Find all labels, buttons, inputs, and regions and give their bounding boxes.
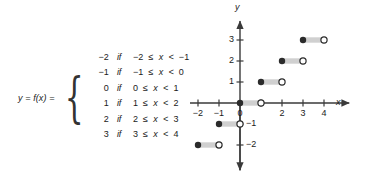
closed-endpoint-dot [258, 79, 264, 85]
x-tick-label: −2 [192, 108, 204, 118]
case-rel2: < [168, 67, 173, 77]
x-tick-label: −1 [213, 108, 225, 118]
y-tick-label: −2 [246, 139, 256, 149]
case-lower: −2 [133, 52, 144, 62]
open-endpoint-dot [300, 58, 306, 64]
case-value: 0 [92, 83, 109, 93]
case-upper: −1 [179, 52, 190, 62]
x-tick-label: 3 [300, 108, 306, 118]
case-lower: 1 [133, 98, 138, 108]
case-condition: 1≤x<2 [133, 98, 179, 108]
y-tick-label: −1 [246, 118, 256, 128]
case-value: 3 [92, 129, 109, 139]
case-condition: −1≤x<0 [133, 67, 184, 77]
plot-svg [190, 0, 368, 180]
case-lower: −1 [133, 67, 144, 77]
case-keyword: if [109, 129, 133, 139]
cases-list: −2 if −2≤x<−1 −1 if −1≤x<0 0 if 0≤x<1 1 … [92, 52, 190, 145]
case-rel1: ≤ [149, 52, 154, 62]
case-upper: 0 [179, 67, 184, 77]
y-axis-label: y [235, 2, 240, 12]
case-rel1: ≤ [143, 83, 148, 93]
x-axis-label: x [336, 97, 341, 107]
closed-endpoint-dot [237, 100, 243, 106]
case-rel1: ≤ [149, 67, 154, 77]
case-value: 1 [92, 98, 109, 108]
case-value: 2 [92, 114, 109, 124]
case-condition: 2≤x<3 [133, 114, 179, 124]
case-lower: 0 [133, 83, 138, 93]
case-keyword: if [109, 52, 133, 62]
case-lower: 2 [133, 114, 138, 124]
step-function-graph: y x −2−10234321−1−2 [190, 0, 368, 180]
closed-endpoint-dot [300, 37, 306, 43]
open-endpoint-dot [279, 79, 285, 85]
y-tick-label: 2 [224, 55, 234, 65]
open-brace: { [64, 71, 83, 125]
case-upper: 3 [173, 114, 178, 124]
piecewise-definition: y = f(x) = { −2 if −2≤x<−1 −1 if −1≤x<0 … [18, 50, 193, 146]
case-rel1: ≤ [143, 98, 148, 108]
function-label: y = f(x) = [18, 93, 55, 104]
case-rel1: ≤ [143, 129, 148, 139]
case-upper: 1 [173, 83, 178, 93]
case-row: 0 if 0≤x<1 [92, 83, 190, 99]
x-tick-label: 0 [237, 108, 243, 118]
case-row: −1 if −1≤x<0 [92, 67, 190, 83]
case-row: −2 if −2≤x<−1 [92, 52, 190, 68]
case-rel2: < [163, 83, 168, 93]
x-tick-label: 4 [321, 108, 327, 118]
case-condition: −2≤x<−1 [133, 52, 190, 62]
case-lower: 3 [133, 129, 138, 139]
case-row: 3 if 3≤x<4 [92, 129, 190, 145]
open-endpoint-dot [258, 100, 264, 106]
case-keyword: if [109, 114, 133, 124]
open-endpoint-dot [237, 121, 243, 127]
case-row: 2 if 2≤x<3 [92, 114, 190, 130]
case-var: x [153, 83, 158, 93]
case-value: −2 [92, 52, 109, 62]
open-endpoint-dot [216, 142, 222, 148]
case-var: x [153, 114, 158, 124]
closed-endpoint-dot [279, 58, 285, 64]
case-upper: 2 [173, 98, 178, 108]
case-rel2: < [163, 129, 168, 139]
case-condition: 3≤x<4 [133, 129, 179, 139]
figure-step-function: y = f(x) = { −2 if −2≤x<−1 −1 if −1≤x<0 … [0, 0, 368, 180]
closed-endpoint-dot [216, 121, 222, 127]
open-endpoint-dot [321, 37, 327, 43]
x-tick-label: 2 [279, 108, 285, 118]
y-tick-label: 3 [224, 34, 234, 44]
case-rel2: < [163, 114, 168, 124]
case-var: x [153, 98, 158, 108]
case-row: 1 if 1≤x<2 [92, 98, 190, 114]
y-tick-label: 1 [224, 76, 234, 86]
case-rel2: < [163, 98, 168, 108]
closed-endpoint-dot [195, 142, 201, 148]
case-rel1: ≤ [143, 114, 148, 124]
case-var: x [159, 52, 164, 62]
case-condition: 0≤x<1 [133, 83, 179, 93]
case-rel2: < [168, 52, 173, 62]
case-value: −1 [92, 67, 109, 77]
case-keyword: if [109, 98, 133, 108]
case-keyword: if [109, 83, 133, 93]
case-keyword: if [109, 67, 133, 77]
case-upper: 4 [173, 129, 178, 139]
case-var: x [159, 67, 164, 77]
case-var: x [153, 129, 158, 139]
